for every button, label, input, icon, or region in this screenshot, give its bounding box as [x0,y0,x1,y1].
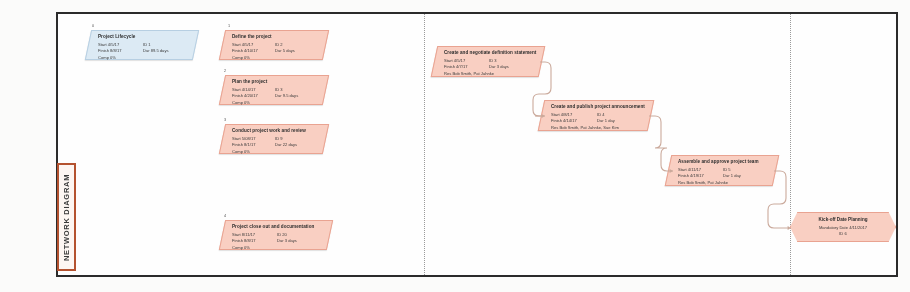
node-title: Conduct project work and review [232,128,318,134]
node-field-resources: Res Bob Smith, Pat Jahnke, Sue Kim [551,125,619,131]
milestone-id: ID 6 [839,231,847,237]
node-field-duration: Dur 1 day [723,173,768,179]
node-field-complete: Comp 0% [232,245,278,251]
node-title: Plan the project [232,79,318,85]
node-field-complete: Comp 0% [232,55,278,61]
network-diagram-title-text: NETWORK DIAGRAM [62,173,71,260]
milestone-kickoff-date-planning[interactable]: Kick-off Date Planning Mandatory Date 4/… [790,212,896,242]
node-field-duration: Dur 3 days [277,238,322,244]
milestone-title: Kick-off Date Planning [818,217,867,222]
node-create-and-publish-project-announcement[interactable]: Create and publish project announcement … [538,100,655,131]
swimlane-divider-2 [790,14,791,275]
node-title: Project close out and documentation [232,224,322,230]
node-field-duration: Dur 9.5 days [275,93,318,99]
node-id-tag: 4 [224,214,226,218]
swimlane-divider-1 [424,14,425,275]
node-create-and-negotiate-definition-statement[interactable]: Create and negotiate definition statemen… [431,46,546,77]
node-id-tag: 0 [92,24,94,28]
node-field-complete: Comp 0% [232,149,278,155]
node-assemble-and-approve-project-team[interactable]: Assemble and approve project team Start … [665,155,780,186]
network-diagram-title-band: NETWORK DIAGRAM [57,163,76,271]
node-title: Create and publish project announcement [551,104,643,110]
node-title: Assemble and approve project team [678,159,768,165]
node-field-duration: Dur 5 days [275,48,318,54]
node-define-the-project[interactable]: Define the project Start 4/5/17ID 2 Fini… [219,30,329,60]
node-project-lifecycle[interactable]: Project Lifecycle Start 4/5/17ID 1 Finis… [85,30,199,60]
network-diagram-page: NETWORK DIAGRAM 0 Project Lifecycle Star… [0,0,910,292]
node-plan-the-project[interactable]: Plan the project Start 4/14/17ID 3 Finis… [219,75,329,105]
node-title: Define the project [232,34,318,40]
node-field-complete: Comp 0% [98,55,144,61]
node-field-complete: Comp 0% [232,100,278,106]
node-title: Create and negotiate definition statemen… [444,50,534,56]
node-field-duration: Dur 89.5 days [143,48,188,54]
node-id-tag: 3 [224,118,226,122]
node-field-duration: Dur 3 days [489,64,534,70]
node-field-resources: Res Bob Smith, Pat Jahnke [444,71,494,77]
node-field-duration: Dur 22 days [275,142,318,148]
node-conduct-project-work-and-review[interactable]: Conduct project work and review Start 5/… [219,124,329,154]
node-project-close-out-and-documentation[interactable]: Project close out and documentation Star… [219,220,333,250]
node-title: Project Lifecycle [98,34,188,40]
node-id-tag: 1 [228,24,230,28]
node-id-tag: 2 [224,69,226,73]
node-field-resources: Res Bob Smith, Pat Jahnke [678,180,728,186]
